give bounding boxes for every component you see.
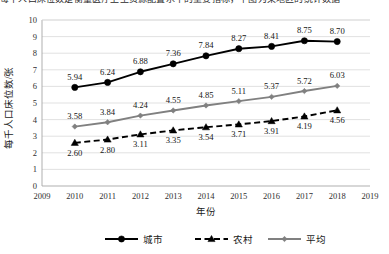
y-tick-label: 3 [33, 131, 37, 141]
data-point-marker [269, 94, 274, 99]
x-tick-label: 2014 [198, 191, 216, 201]
data-label: 3.58 [67, 111, 82, 121]
x-tick-label: 2019 [362, 191, 379, 201]
legend-item-农村: 农村 [195, 234, 253, 245]
y-tick-label: 10 [29, 15, 38, 25]
data-label: 3.35 [166, 135, 181, 145]
y-tick-label: 6 [33, 81, 37, 91]
y-tick-label: 4 [33, 115, 38, 125]
y-axis-tick-labels: 012345678910 [29, 15, 38, 191]
data-label: 3.11 [133, 139, 148, 149]
data-point-marker [335, 83, 340, 88]
data-label: 7.36 [166, 48, 182, 58]
data-point-marker [72, 124, 77, 129]
data-label: 2.60 [67, 148, 82, 158]
y-axis-title: 每千人口床位数/张 [3, 67, 14, 150]
data-point-marker [334, 107, 341, 113]
data-point-marker [105, 79, 111, 85]
data-label: 4.55 [166, 95, 181, 105]
y-tick-label: 1 [33, 164, 37, 174]
data-label: 5.72 [297, 76, 312, 86]
legend-label: 城市 [143, 234, 163, 245]
data-label: 8.75 [297, 25, 312, 35]
x-tick-label: 2012 [132, 191, 149, 201]
data-point-marker [72, 84, 78, 90]
data-point-marker [302, 88, 307, 93]
data-point-marker [236, 46, 242, 52]
x-tick-label: 2013 [165, 191, 182, 201]
y-tick-label: 9 [33, 32, 37, 42]
data-label: 4.56 [330, 115, 346, 125]
x-tick-label: 2018 [329, 191, 346, 201]
x-tick-label: 2015 [230, 191, 247, 201]
y-tick-label: 7 [33, 65, 37, 75]
legend-label: 平均 [306, 234, 326, 245]
data-point-marker [170, 61, 176, 67]
chart-container: 每千人口床位数是衡量医疗卫生资源配置水平的重要指标，下图为某地区的统计数据 01… [0, 0, 389, 254]
data-point-marker [138, 113, 143, 118]
legend-item-平均: 平均 [268, 234, 326, 245]
data-point-marker [203, 103, 208, 108]
data-point-marker [334, 38, 340, 44]
data-point-marker [269, 43, 275, 49]
data-label: 3.71 [231, 129, 246, 139]
data-label: 8.41 [264, 31, 279, 41]
data-label: 3.54 [198, 132, 214, 142]
data-label: 7.84 [198, 40, 214, 50]
data-label: 2.80 [100, 145, 115, 155]
data-label: 5.11 [231, 86, 246, 96]
data-point-marker [105, 120, 110, 125]
y-tick-label: 8 [33, 48, 37, 58]
data-point-marker [137, 69, 143, 75]
data-point-marker [282, 236, 287, 241]
data-label: 8.27 [231, 33, 247, 43]
y-tick-label: 5 [33, 98, 37, 108]
x-tick-label: 2016 [263, 191, 280, 201]
data-point-marker [301, 38, 307, 44]
data-label: 3.84 [100, 107, 116, 117]
x-tick-label: 2009 [34, 191, 51, 201]
legend-item-城市: 城市 [105, 234, 163, 245]
data-label: 3.91 [264, 126, 279, 136]
data-label: 5.94 [67, 72, 83, 82]
y-tick-label: 0 [33, 181, 37, 191]
line-chart: 012345678910 200920102011201220132014201… [0, 0, 389, 254]
data-label: 4.19 [297, 121, 312, 131]
data-label: 6.24 [100, 67, 116, 77]
data-point-marker [118, 236, 124, 242]
data-label: 4.85 [198, 90, 213, 100]
data-label: 6.88 [133, 56, 148, 66]
data-point-marker [203, 53, 209, 59]
x-axis-tick-labels: 2009201020112012201320142015201620172018… [34, 191, 379, 201]
x-axis-title: 年份 [196, 206, 216, 217]
data-label: 5.37 [264, 81, 280, 91]
x-tick-label: 2010 [66, 191, 83, 201]
x-tick-label: 2011 [99, 191, 116, 201]
legend-label: 农村 [233, 234, 253, 245]
y-tick-label: 2 [33, 148, 37, 158]
data-point-marker [171, 108, 176, 113]
x-tick-label: 2017 [296, 191, 313, 201]
data-label: 6.03 [330, 70, 345, 80]
chart-legend: 城市农村平均 [105, 234, 326, 245]
data-label: 4.24 [133, 100, 149, 110]
data-label: 8.70 [330, 26, 345, 36]
